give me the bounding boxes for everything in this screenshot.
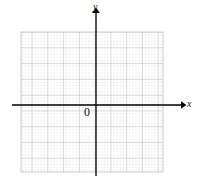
- x-axis-arrowhead: [181, 101, 187, 109]
- grid-area: [21, 32, 163, 172]
- x-axis-label: x: [187, 99, 191, 109]
- major-gridlines: [21, 32, 163, 172]
- y-axis-label: y: [93, 2, 97, 12]
- grid-svg: [0, 0, 200, 184]
- origin-label: 0: [84, 106, 90, 118]
- coordinate-plane-figure: y x 0: [0, 0, 200, 184]
